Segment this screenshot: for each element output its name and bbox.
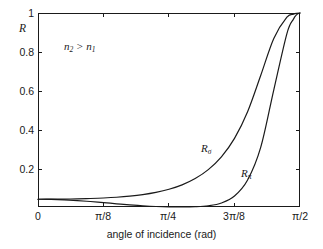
annotation-n-right: n [86,40,92,52]
y-tick-label-04: 0.4 [6,124,34,136]
y-axis-label: R [19,22,26,34]
curve-label-r-pi-base: R [241,167,248,179]
annotation-sub-right: 1 [92,45,96,54]
curve-label-r-sigma-subscript: σ [208,147,212,156]
annotation-n-left: n [64,40,70,52]
x-tick-label-pi8: π/8 [86,210,120,222]
x-tick-label-3pi8: 3π/8 [214,210,254,222]
fresnel-reflectance-chart: R 1 0.8 0.6 0.4 0.2 0 π/8 π/4 3π/8 π/2 n… [0,0,323,249]
curve-label-r-pi-subscript: π [248,172,252,181]
x-tick-label-pi2: π/2 [283,210,317,222]
y-tick-label-06: 0.6 [6,85,34,97]
annotation-operator: > [73,40,86,52]
annotation-sub-left: 2 [70,45,74,54]
annotation-refractive-index-condition: n2 > n1 [64,40,95,52]
x-tick-label-0: 0 [26,210,50,222]
x-tick-label-pi4: π/4 [151,210,185,222]
curve-label-r-pi: Rπ [241,167,251,179]
curve-label-r-sigma: Rσ [201,142,211,154]
y-tick-label-02: 0.2 [6,163,34,175]
y-tick-label-1: 1 [16,7,34,19]
y-tick-label-08: 0.8 [6,46,34,58]
x-axis-label: angle of incidence (rad) [0,228,323,240]
curve-label-r-sigma-base: R [201,142,208,154]
